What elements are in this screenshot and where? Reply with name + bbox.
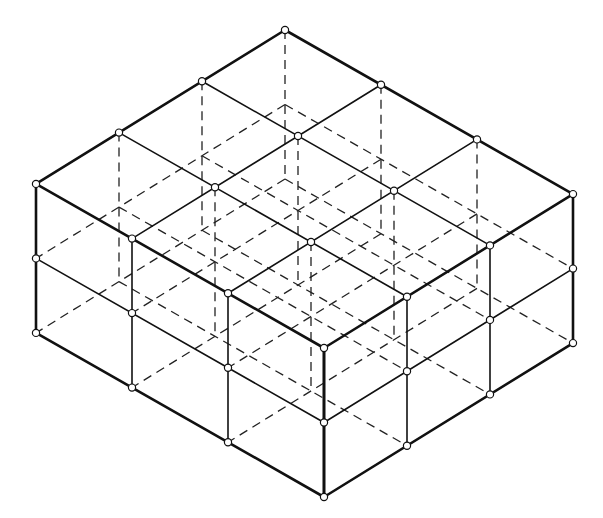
vertex-node [224, 439, 231, 446]
vertex-node [403, 442, 410, 449]
vertex-nodes [32, 26, 576, 500]
vertex-node [486, 316, 493, 323]
vertex-node [403, 293, 410, 300]
vertex-node [486, 391, 493, 398]
vertex-node [224, 364, 231, 371]
vertex-node [320, 419, 327, 426]
isometric-lattice-diagram [0, 0, 603, 518]
vertex-node [307, 238, 314, 245]
vertex-node [569, 340, 576, 347]
vertex-node [128, 384, 135, 391]
vertex-node [390, 187, 397, 194]
vertex-node [224, 290, 231, 297]
vertex-node [473, 136, 480, 143]
visible-edge [324, 269, 573, 423]
vertex-node [281, 26, 288, 33]
vertex-node [32, 180, 39, 187]
vertex-node [32, 329, 39, 336]
visible-edge [36, 333, 324, 497]
hidden-edge [285, 105, 573, 269]
vertex-node [377, 81, 384, 88]
hidden-edge [285, 179, 573, 343]
visible-edges [36, 30, 573, 497]
vertex-node [403, 368, 410, 375]
vertex-node [128, 235, 135, 242]
vertex-node [115, 129, 122, 136]
visible-edge [324, 343, 573, 497]
vertex-node [32, 255, 39, 262]
visible-edge [36, 258, 324, 422]
hidden-edge [132, 159, 381, 313]
vertex-node [294, 132, 301, 139]
vertex-node [486, 242, 493, 249]
vertex-node [211, 184, 218, 191]
vertex-node [569, 191, 576, 198]
vertex-node [569, 265, 576, 272]
vertex-node [320, 344, 327, 351]
vertex-node [128, 310, 135, 317]
vertex-node [198, 78, 205, 85]
vertex-node [320, 493, 327, 500]
